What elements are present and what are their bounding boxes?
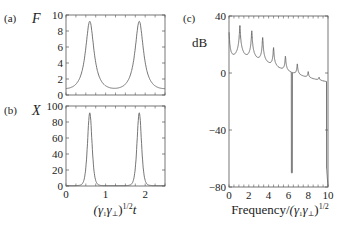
panel-a-frame [66, 15, 165, 95]
panel-c-curve [229, 26, 328, 187]
panel-c-ticks: −80−400400246810 [209, 10, 334, 201]
ytick-label: −40 [209, 124, 227, 136]
xtick-label: 4 [266, 189, 272, 201]
ytick-label: 20 [52, 164, 64, 176]
panel-a-label: (a) [4, 12, 17, 25]
panel-b-curve [66, 113, 165, 186]
panel-b-frame [66, 106, 165, 186]
ytick-label: −80 [209, 181, 227, 193]
xtick-label: 0 [63, 188, 69, 200]
ytick-label: 40 [215, 10, 227, 22]
panel-b-ticks: 020406080100012 [47, 100, 166, 200]
xtick-label: 0 [226, 189, 232, 201]
xtick-label: 10 [323, 189, 335, 201]
ytick-label: 100 [47, 100, 64, 112]
ytick-label: 8 [58, 25, 64, 37]
figure: (a) F 0246810 (b) X 020406080100012 (γ1γ… [0, 0, 344, 226]
panel-c-xlabel: Frequency/(γ1γ⊥)1/2 [231, 202, 329, 218]
panel-c-ylabel: dB [192, 35, 208, 50]
panel-c-frame [229, 16, 328, 187]
ytick-label: 60 [52, 132, 64, 144]
xtick-label: 2 [142, 188, 148, 200]
panel-b-label: (b) [4, 104, 17, 117]
panel-c-label: (c) [183, 12, 196, 25]
xtick-label: 8 [305, 189, 311, 201]
panel-b-ylabel: X [31, 103, 41, 118]
panel-a-ylabel: F [31, 11, 41, 26]
ytick-label: 40 [52, 148, 64, 160]
ytick-label: 4 [58, 57, 64, 69]
panel-b-xlabel: (γ1γ⊥)1/2t [94, 202, 137, 218]
ytick-label: 6 [58, 41, 64, 53]
xtick-label: 2 [246, 189, 252, 201]
panel-a: (a) F 0246810 [4, 9, 165, 101]
ytick-label: 0 [221, 67, 227, 79]
ytick-label: 2 [58, 73, 64, 85]
panel-b: (b) X 020406080100012 (γ1γ⊥)1/2t [4, 100, 165, 218]
ytick-label: 10 [52, 9, 64, 21]
ytick-label: 80 [52, 116, 64, 128]
xtick-label: 1 [103, 188, 109, 200]
panel-c: (c) dB −80−400400246810 Frequency/(γ1γ⊥)… [183, 10, 334, 218]
panel-a-curve [66, 21, 165, 88]
xtick-label: 6 [286, 189, 292, 201]
